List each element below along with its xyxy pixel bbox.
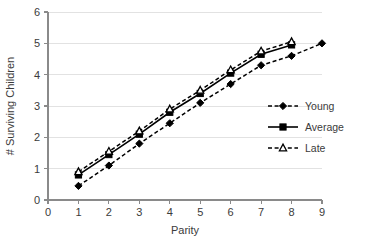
legend-item-late[interactable]: Late [268, 142, 326, 154]
data-point-marker [318, 40, 325, 47]
x-axis-title: Parity [171, 224, 200, 236]
legend-label: Average [305, 121, 344, 133]
data-point-marker [105, 148, 112, 155]
data-point-marker [280, 124, 286, 130]
gridlines [48, 12, 322, 169]
y-tick-label: 2 [34, 131, 40, 143]
x-tick-label: 0 [45, 206, 51, 218]
data-point-marker [136, 140, 143, 147]
x-tick-label: 1 [75, 206, 81, 218]
data-point-marker [279, 102, 286, 109]
series-young [75, 40, 326, 190]
legend-label: Young [305, 100, 335, 112]
data-point-marker [227, 80, 234, 87]
legend-label: Late [305, 142, 326, 154]
y-tick-label: 0 [34, 194, 40, 206]
series-line [78, 43, 322, 186]
y-tick-label: 4 [34, 69, 40, 81]
data-point-marker [197, 86, 204, 93]
legend-item-average[interactable]: Average [268, 121, 344, 133]
y-tick-label: 1 [34, 163, 40, 175]
data-point-marker [288, 38, 295, 45]
line-chart: 0123456 0123456789 YoungAverageLate Pari… [0, 0, 366, 244]
y-axis-tick-labels: 0123456 [34, 6, 48, 206]
x-axis-tick-labels: 0123456789 [45, 200, 325, 218]
data-series-group [75, 38, 326, 190]
y-tick-label: 5 [34, 37, 40, 49]
data-point-marker [279, 144, 286, 151]
data-point-marker [227, 66, 234, 73]
y-tick-label: 6 [34, 6, 40, 18]
data-point-marker [197, 99, 204, 106]
x-tick-label: 9 [319, 206, 325, 218]
data-point-marker [258, 62, 265, 69]
data-point-marker [288, 52, 295, 59]
x-tick-label: 2 [106, 206, 112, 218]
data-point-marker [136, 127, 143, 134]
x-tick-label: 5 [197, 206, 203, 218]
y-tick-label: 3 [34, 100, 40, 112]
x-tick-label: 8 [288, 206, 294, 218]
chart-legend: YoungAverageLate [268, 100, 344, 154]
x-tick-label: 3 [136, 206, 142, 218]
y-axis-title: # Surviving Children [4, 57, 16, 155]
x-tick-label: 7 [258, 206, 264, 218]
chart-container: 0123456 0123456789 YoungAverageLate Pari… [0, 0, 366, 244]
data-point-marker [258, 47, 265, 54]
x-tick-label: 4 [167, 206, 173, 218]
x-tick-label: 6 [228, 206, 234, 218]
